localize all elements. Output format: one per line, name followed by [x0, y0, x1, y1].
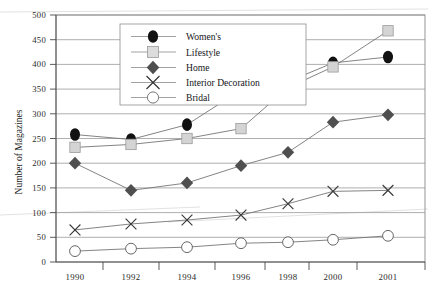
y-tick-label-500: 500	[32, 10, 46, 20]
data-point-filled-diamond-icon	[69, 157, 81, 170]
data-point-light-square-icon	[70, 142, 80, 152]
y-tick-label-200: 200	[32, 158, 46, 168]
data-point-filled-diamond-icon	[282, 146, 294, 159]
y-tick-label-0: 0	[41, 257, 46, 267]
data-point-open-circle-icon	[383, 230, 394, 241]
x-tick-label-1996: 1996	[231, 272, 250, 282]
data-point-filled-diamond-icon	[327, 116, 339, 129]
y-tick-label-400: 400	[32, 59, 46, 69]
legend-label-interior-decoration: Interior Decoration	[186, 77, 260, 88]
x-tick-marks	[103, 262, 425, 270]
data-point-filled-ellipse-icon	[182, 118, 192, 131]
series-bridal	[75, 236, 388, 251]
y-tick-label-450: 450	[32, 35, 46, 45]
data-point-filled-diamond-icon	[235, 159, 247, 172]
legend-label-womens: Women's	[186, 31, 221, 42]
data-point-filled-ellipse-icon	[70, 128, 80, 141]
data-point-light-square-icon	[236, 123, 246, 133]
data-point-filled-diamond-icon	[125, 184, 137, 197]
data-point-open-circle-icon	[328, 234, 339, 245]
x-tick-label-1994: 1994	[177, 272, 196, 282]
data-point-filled-diamond-icon	[181, 177, 193, 190]
x-tick-label-2000: 2000	[323, 272, 342, 282]
y-tick-label-250: 250	[32, 134, 46, 144]
chart-canvas: 500 450 400 350 300 250 200 150 100 50 0…	[0, 0, 428, 303]
data-point-open-circle-icon	[126, 243, 137, 254]
legend-label-interior-home: Home	[186, 62, 209, 73]
y-tick-label-300: 300	[32, 109, 46, 119]
y-tick-label-350: 350	[32, 84, 46, 94]
data-point-light-square-icon	[182, 133, 192, 143]
legend-marker-light-square-icon	[148, 47, 159, 58]
magazine-count-line-chart: 500 450 400 350 300 250 200 150 100 50 0…	[0, 0, 428, 303]
x-tick-label-2001: 2001	[378, 272, 397, 282]
legend-label-bridal: Bridal	[186, 92, 210, 103]
data-point-light-square-icon	[328, 62, 338, 72]
data-point-filled-ellipse-icon	[383, 51, 393, 64]
page-smudge-left	[0, 207, 200, 215]
data-point-open-circle-icon	[283, 237, 294, 248]
page-smudge-right	[168, 209, 428, 222]
y-tick-label-150: 150	[32, 183, 46, 193]
series-line	[75, 115, 388, 191]
y-tick-marks	[50, 15, 56, 262]
data-point-light-square-icon	[383, 26, 393, 36]
series-line	[75, 236, 388, 251]
page-smudge-top	[0, 9, 428, 12]
legend-marker-open-circle-icon	[147, 92, 158, 103]
chart-legend: Women's Lifestyle Home Interior Decorati…	[120, 24, 306, 105]
x-tick-label-1990: 1990	[65, 272, 84, 282]
legend-label-lifestyle: Lifestyle	[186, 47, 220, 58]
data-point-open-circle-icon	[182, 242, 193, 253]
y-tick-label-100: 100	[32, 208, 46, 218]
legend-marker-filled-ellipse-icon	[148, 30, 158, 42]
x-tick-label-1998: 1998	[278, 272, 297, 282]
y-tick-label-50: 50	[37, 232, 46, 242]
data-point-filled-diamond-icon	[382, 108, 394, 121]
data-point-open-circle-icon	[236, 238, 247, 249]
series-markers-bridal	[70, 230, 394, 256]
y-axis-title: Number of Magazines	[14, 109, 24, 194]
data-point-cross-x-icon	[283, 198, 294, 209]
data-point-open-circle-icon	[70, 246, 81, 257]
x-tick-label-1992: 1992	[121, 272, 140, 282]
data-point-light-square-icon	[126, 139, 136, 149]
series-home	[75, 115, 388, 191]
